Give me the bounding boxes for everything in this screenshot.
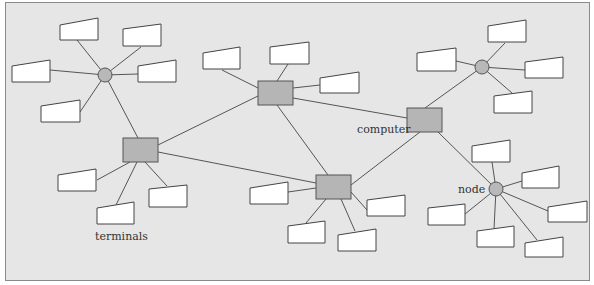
terminal-icon: [270, 42, 309, 64]
terminal-icon: [203, 47, 240, 69]
terminals-label: terminals: [95, 230, 148, 243]
computer-icon: [316, 175, 351, 199]
terminal-icon: [97, 202, 134, 224]
terminal-icon: [428, 204, 465, 225]
terminal-icon: [472, 140, 510, 162]
terminal-icon: [522, 166, 559, 188]
terminal-icon: [138, 60, 176, 82]
terminal-icon: [320, 72, 359, 93]
node-label: node: [458, 183, 485, 196]
computer-icon: [123, 138, 158, 162]
node-icon: [475, 60, 489, 74]
terminal-icon: [548, 201, 587, 222]
terminal-icon: [123, 24, 161, 46]
computer-icon: [258, 81, 293, 105]
node-icon: [489, 182, 503, 196]
terminal-icon: [338, 229, 376, 251]
terminal-icon: [58, 169, 96, 191]
terminal-icon: [367, 195, 405, 216]
terminal-icon: [149, 185, 187, 207]
node-icon: [98, 68, 112, 82]
terminal-icon: [417, 48, 456, 71]
terminal-icon: [41, 100, 80, 122]
terminal-icon: [60, 18, 98, 40]
terminal-icon: [12, 60, 50, 82]
terminals: [12, 18, 587, 257]
computer-icon: [407, 108, 442, 132]
terminal-icon: [525, 57, 563, 78]
terminal-icon: [488, 20, 526, 42]
network-diagram: terminals computer node: [0, 0, 594, 285]
terminal-icon: [525, 237, 563, 257]
terminal-icon: [477, 226, 514, 247]
computer-label: computer: [357, 123, 411, 136]
terminal-icon: [250, 182, 288, 204]
terminal-icon: [288, 221, 325, 243]
terminal-icon: [494, 91, 532, 113]
computers: [123, 81, 442, 199]
